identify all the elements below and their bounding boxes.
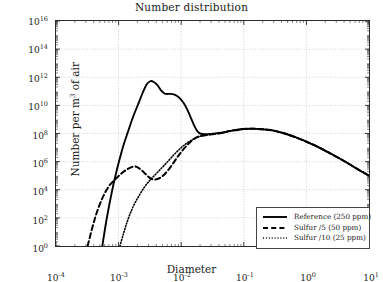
- legend-label: Reference (250 ppm): [294, 212, 371, 222]
- legend-line-sample: [262, 212, 288, 222]
- y-axis-tick-label: 1014: [28, 43, 48, 55]
- legend-line-sample: [262, 233, 288, 243]
- legend-line-sample: [262, 223, 288, 233]
- legend-item: Sulfur /10 (25 ppm): [262, 233, 365, 244]
- y-axis-tick-label: 1016: [28, 15, 48, 27]
- legend-item: Reference (250 ppm): [262, 212, 365, 223]
- y-axis-tick-label: 108: [32, 129, 48, 141]
- plot-area: Number per m3 of air Reference (250 ppm)…: [55, 20, 370, 247]
- y-axis-tick-label: 102: [32, 214, 48, 226]
- legend: Reference (250 ppm)Sulfur /5 (50 ppm)Sul…: [256, 207, 370, 249]
- x-axis-label: Diameter: [0, 263, 383, 275]
- y-axis-tick-label: 104: [32, 185, 48, 197]
- legend-label: Sulfur /5 (50 ppm): [294, 223, 361, 233]
- legend-item: Sulfur /5 (50 ppm): [262, 223, 365, 234]
- legend-label: Sulfur /10 (25 ppm): [294, 233, 366, 243]
- y-axis-tick-label: 106: [32, 157, 48, 169]
- y-axis-tick-label: 1010: [28, 100, 48, 112]
- y-axis-tick-label: 1012: [28, 72, 48, 84]
- y-axis-tick-label: 100: [32, 242, 48, 254]
- chart-title: Number distribution: [0, 1, 383, 13]
- chart-figure: Number distribution Number per m3 of air…: [0, 0, 383, 282]
